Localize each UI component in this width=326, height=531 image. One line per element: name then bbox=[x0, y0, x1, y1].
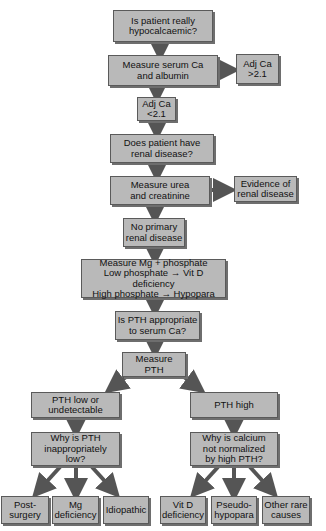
node-adj-ca-high: Adj Ca >2.1 bbox=[236, 54, 279, 84]
arrow-why-ca-to-other-rare bbox=[250, 467, 270, 489]
node-renal-disease-question: Does patient have renal disease? bbox=[110, 134, 214, 163]
node-measure-pth: Measure PTH bbox=[122, 352, 186, 377]
node-other-rare-causes: Other rare causes bbox=[262, 496, 310, 524]
node-idiopathic: Idiopathic bbox=[103, 496, 149, 524]
node-is-patient-hypocalcaemic: Is patient really hypocalcaemic? bbox=[113, 10, 213, 42]
node-post-surgery: Post- surgery bbox=[1, 496, 49, 524]
node-evidence-renal-disease: Evidence of renal disease bbox=[234, 176, 297, 202]
node-pth-low-undetectable: PTH low or undetectable bbox=[31, 392, 120, 418]
node-adj-ca-low: Adj Ca <2.1 bbox=[137, 97, 176, 121]
arrow-measure-pth-to-high bbox=[184, 377, 196, 386]
arrow-why-ca-to-vit-d bbox=[198, 467, 218, 489]
node-pth-appropriate-question: Is PTH appropriate to serum Ca? bbox=[115, 311, 200, 340]
node-why-pth-low-question: Why is PTH inappropriately low? bbox=[31, 432, 120, 466]
node-measure-mg-phosphate: Measure Mg + phosphate Low phosphate → V… bbox=[81, 259, 226, 298]
node-vit-d-deficiency: Vit D deficiency bbox=[160, 496, 206, 524]
arrow-why-low-to-idiopathic bbox=[92, 467, 112, 489]
node-measure-serum-ca-albumin: Measure serum Ca and albumin bbox=[108, 55, 218, 86]
node-no-primary-renal-disease: No primary renal disease bbox=[123, 218, 185, 247]
node-pseudo-hypopara: Pseudo- hypopara bbox=[211, 496, 257, 524]
arrow-why-low-to-post-surgery bbox=[40, 467, 60, 489]
node-measure-urea-creatinine: Measure urea and creatinine bbox=[110, 176, 210, 205]
node-pth-high: PTH high bbox=[190, 392, 278, 418]
node-mg-deficiency: Mg deficiency bbox=[52, 496, 99, 524]
node-why-calcium-not-normalized-question: Why is calcium not normalized by high PT… bbox=[190, 432, 278, 466]
arrow-measure-pth-to-low bbox=[114, 377, 126, 386]
